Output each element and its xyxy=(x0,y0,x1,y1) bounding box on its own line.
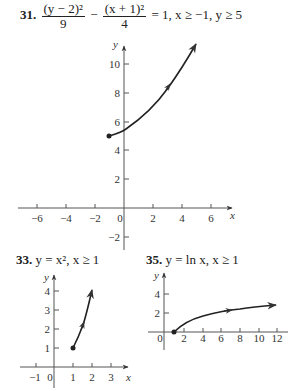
y-tick-label: 3 xyxy=(45,304,51,316)
graphs-canvas: −6 −4 −2 0 2 4 6 x 10 8 6 4 2 −2 y −1 0 … xyxy=(0,0,288,391)
x-tick-label: 6 xyxy=(208,212,214,224)
x-axis-label: x xyxy=(229,209,235,221)
y-tick-label: 1 xyxy=(45,342,51,354)
y-tick-label: 2 xyxy=(115,173,121,185)
y-tick-label: −2 xyxy=(108,231,120,243)
graph-33-labels: −1 0 1 2 3 x 4 3 2 1 y xyxy=(29,271,131,383)
x-tick-label: 2 xyxy=(150,212,156,224)
x-tick-label: 4 xyxy=(200,332,206,344)
x-tick-label: 4 xyxy=(179,212,185,224)
graph-31-labels: −6 −4 −2 0 2 4 6 x 10 8 6 4 2 −2 y xyxy=(31,38,235,243)
x-tick-label: 10 xyxy=(254,332,266,344)
start-point xyxy=(172,330,177,335)
y-tick-label: 4 xyxy=(115,144,121,156)
y-axis-label: y xyxy=(112,38,118,50)
x-tick-label: 1 xyxy=(70,371,76,383)
y-tick-label: 4 xyxy=(45,285,51,297)
y-axis-label: y xyxy=(153,269,159,281)
y-tick-label: 6 xyxy=(115,116,121,128)
graph-31 xyxy=(18,46,232,250)
x-tick-label: 3 xyxy=(108,371,114,383)
x-tick-label: 2 xyxy=(89,371,95,383)
x-tick-label: 0 xyxy=(157,332,163,344)
x-tick-label: 0 xyxy=(117,212,123,224)
x-axis-label: x xyxy=(125,371,131,383)
x-tick-label: −6 xyxy=(31,212,43,224)
x-tick-label: −1 xyxy=(29,371,41,383)
y-tick-label: 4 xyxy=(155,288,161,300)
x-tick-label: 6 xyxy=(218,332,224,344)
graph-33-curve xyxy=(71,290,93,351)
x-tick-label: 2 xyxy=(181,332,187,344)
x-tick-label: −2 xyxy=(89,212,101,224)
start-point xyxy=(71,346,76,351)
y-tick-label: 2 xyxy=(45,323,51,335)
y-axis-label: y xyxy=(43,271,49,283)
x-tick-label: −4 xyxy=(60,212,72,224)
start-point xyxy=(107,134,112,139)
y-tick-label: 10 xyxy=(109,58,121,70)
y-tick-label: 2 xyxy=(155,307,161,319)
x-tick-label: 0 xyxy=(47,371,53,383)
graph-35-curve xyxy=(172,305,277,335)
x-tick-label: 8 xyxy=(237,332,243,344)
x-tick-label: 12 xyxy=(272,332,283,344)
y-tick-label: 8 xyxy=(115,87,121,99)
